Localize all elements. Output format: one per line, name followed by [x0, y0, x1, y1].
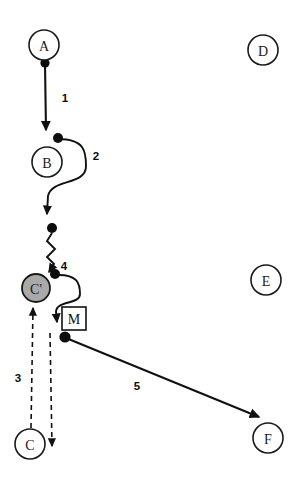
edge-path-4-zigzag[interactable] [47, 233, 55, 272]
node-d[interactable]: D [248, 35, 278, 65]
node-b[interactable]: B [32, 147, 62, 177]
edge-path-3-down[interactable] [50, 333, 52, 446]
node-b-label: B [42, 156, 51, 171]
edge-group-4[interactable]: 4 [47, 223, 68, 272]
node-c-label: C [25, 438, 34, 453]
edge-start-dot-2 [53, 133, 63, 143]
edge-start-dot-5 [59, 331, 70, 342]
edge-group-3-down[interactable] [50, 333, 52, 446]
node-f-label: F [264, 432, 272, 447]
node-a-label: A [39, 39, 50, 54]
edge-label-5: 5 [134, 380, 141, 392]
edge-group-5[interactable]: 5 [59, 331, 259, 417]
diagram-canvas: 1 2 4 3 5 [0, 0, 300, 484]
edge-start-dot-4b [50, 269, 60, 279]
node-e[interactable]: E [251, 265, 281, 295]
edge-path-5[interactable] [66, 338, 259, 417]
marker-m[interactable]: M [62, 307, 86, 330]
edge-path-1[interactable] [45, 64, 46, 130]
edge-label-2: 2 [93, 150, 99, 162]
edge-label-4: 4 [61, 260, 68, 272]
edge-group-1[interactable]: 1 [40, 58, 68, 130]
diagram-svg: 1 2 4 3 5 [0, 0, 300, 484]
marker-m-label: M [68, 312, 81, 327]
node-c-prime[interactable]: C' [22, 274, 50, 302]
edge-group-3-up[interactable]: 3 [15, 308, 33, 428]
node-a[interactable]: A [29, 30, 59, 60]
edge-label-1: 1 [62, 92, 69, 104]
node-f[interactable]: F [253, 423, 283, 453]
edge-label-3: 3 [15, 372, 21, 384]
node-d-label: D [258, 44, 268, 59]
edge-start-dot-4 [47, 223, 57, 233]
node-e-label: E [262, 274, 271, 289]
node-c[interactable]: C [15, 429, 45, 459]
edge-path-3-up[interactable] [31, 308, 33, 428]
node-c-prime-label: C' [30, 282, 42, 297]
